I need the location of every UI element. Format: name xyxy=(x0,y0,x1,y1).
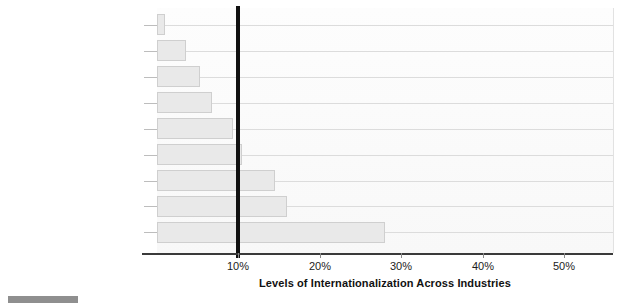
x-tick-label: 20% xyxy=(309,260,331,272)
x-tick-mark xyxy=(238,253,239,258)
x-tick-mark xyxy=(320,253,321,258)
plot-area xyxy=(157,8,614,253)
x-tick-mark xyxy=(483,253,484,258)
category-tick xyxy=(144,206,157,207)
x-tick-mark xyxy=(564,253,565,258)
gridline xyxy=(157,51,613,52)
x-tick-label: 30% xyxy=(390,260,412,272)
bar xyxy=(157,170,275,191)
x-tick-mark xyxy=(401,253,402,258)
bar xyxy=(157,144,242,165)
gridline xyxy=(157,25,613,26)
bar xyxy=(157,40,186,61)
bar xyxy=(157,118,233,139)
caption-bar-stub xyxy=(8,296,78,303)
category-tick xyxy=(144,181,157,182)
category-tick xyxy=(144,103,157,104)
chart-container: Immigration (to Population)Phone Call Re… xyxy=(0,0,630,305)
bar xyxy=(157,222,385,243)
x-axis-line xyxy=(142,253,613,255)
reference-line-10-percent xyxy=(236,6,240,258)
x-tick-label: 10% xyxy=(227,260,249,272)
category-tick xyxy=(144,77,157,78)
category-tick xyxy=(144,155,157,156)
bar xyxy=(157,92,212,113)
gridline xyxy=(157,77,613,78)
bar xyxy=(157,66,200,87)
x-tick-label: 50% xyxy=(553,260,575,272)
bar xyxy=(157,196,287,217)
gridline xyxy=(157,103,613,104)
category-tick xyxy=(144,51,157,52)
category-tick xyxy=(144,232,157,233)
category-tick xyxy=(144,129,157,130)
x-axis-title: Levels of Internationalization Across In… xyxy=(157,277,613,289)
x-tick-label: 40% xyxy=(472,260,494,272)
bar xyxy=(157,14,165,35)
category-tick xyxy=(144,25,157,26)
